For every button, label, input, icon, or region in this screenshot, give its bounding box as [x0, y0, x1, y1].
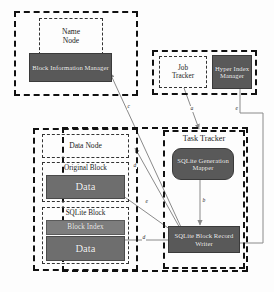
- edge-label-d2: d: [142, 235, 146, 241]
- sqlite-block-title: SQLite Block: [42, 208, 129, 218]
- edge-label-e1: e: [145, 199, 148, 205]
- edge-label-a: a: [190, 106, 194, 112]
- sqlite-block-data-box[interactable]: Data: [46, 236, 125, 261]
- sqlite-generation-mapper-box[interactable]: SQLite Generation Mapper: [172, 148, 234, 180]
- hyper-index-manager-box[interactable]: Hyper Index Manager: [212, 55, 252, 89]
- edge-label-e2: e: [235, 106, 238, 112]
- data-node-label: Data Node: [42, 134, 129, 158]
- job-tracker-label: Job Tracker: [159, 56, 207, 88]
- block-index-box[interactable]: Block Index: [46, 220, 125, 235]
- diagram-canvas: Name Node Block Information Manager Job …: [0, 0, 274, 292]
- name-node-label: Name Node: [39, 18, 103, 55]
- block-information-manager-box[interactable]: Block Information Manager: [29, 53, 112, 82]
- original-block-title: Original Block: [42, 163, 129, 173]
- original-block-data-box[interactable]: Data: [46, 175, 125, 199]
- edge-label-b: b: [202, 198, 206, 204]
- task-tracker-title: Task Tracker: [163, 133, 245, 144]
- sqlite-block-record-writer-box[interactable]: SQLite Block Record Writer: [168, 226, 240, 253]
- edge-label-d1: d: [133, 163, 137, 169]
- edge-label-c: c: [127, 104, 130, 110]
